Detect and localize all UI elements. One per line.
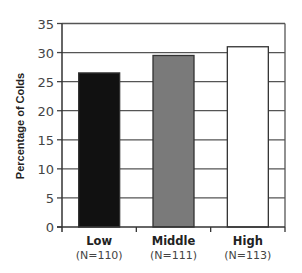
bar-chart: Percentage of Colds 05101520253035 Low(N…: [0, 0, 302, 273]
x-sample-size-label: (N=111): [134, 249, 214, 262]
bar-high: [227, 47, 268, 227]
x-category-label: Low: [64, 234, 134, 248]
y-tick-label: 10: [30, 161, 54, 176]
bar-middle: [153, 55, 194, 227]
y-tick-label: 30: [30, 45, 54, 60]
x-category-label: High: [213, 234, 283, 248]
y-tick-label: 5: [30, 190, 54, 205]
bar-low: [79, 73, 120, 227]
y-tick-label: 15: [30, 132, 54, 147]
x-sample-size-label: (N=110): [59, 249, 139, 262]
y-tick-label: 35: [30, 16, 54, 31]
x-sample-size-label: (N=113): [208, 249, 288, 262]
y-axis-label: Percentage of Colds: [14, 73, 26, 179]
x-category-label: Middle: [139, 234, 209, 248]
y-tick-label: 0: [30, 220, 54, 235]
y-tick-label: 20: [30, 103, 54, 118]
y-tick-label: 25: [30, 74, 54, 89]
